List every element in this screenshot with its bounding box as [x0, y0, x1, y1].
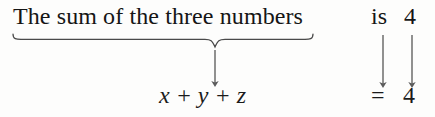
linking-verb-text: is — [371, 4, 387, 28]
equals-sign-text: = — [371, 83, 385, 107]
stated-value-text: 4 — [404, 4, 416, 28]
math-translation-figure: The sum of the three numbers is 4 x + y … — [0, 0, 435, 117]
algebraic-expression-text: x + y + z — [159, 83, 246, 107]
braced-phrase-text: The sum of the three numbers — [13, 4, 303, 28]
underbrace-icon — [13, 34, 313, 47]
equation-value-text: 4 — [403, 83, 415, 107]
